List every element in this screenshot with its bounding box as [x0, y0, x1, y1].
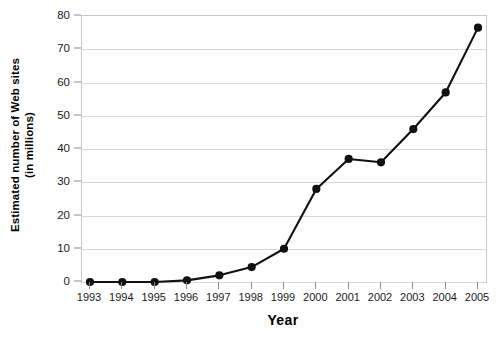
y-axis-tick-mark: [74, 181, 81, 182]
x-axis-tick-mark: [315, 282, 316, 289]
y-axis-tick-label: 40: [57, 143, 70, 154]
y-axis-title-line-2: (in millions): [22, 58, 36, 232]
y-axis-tick-mark: [74, 214, 81, 215]
y-axis-title: Estimated number of Web sites (in millio…: [0, 0, 44, 290]
y-axis-tick-labels: 01020304050607080: [44, 8, 74, 288]
y-axis-tick-mark: [74, 81, 81, 82]
x-axis-tick-label: 1996: [174, 291, 198, 304]
line-chart-figure: Estimated number of Web sites (in millio…: [0, 0, 498, 342]
plot-area: [81, 15, 487, 283]
x-axis-tick-mark: [380, 282, 381, 289]
x-axis-tick-mark: [89, 282, 90, 289]
y-axis-tick-label: 50: [57, 109, 70, 120]
x-axis-tick-label: 1997: [206, 291, 230, 304]
x-axis-tick-mark: [251, 282, 252, 289]
y-axis-title-line-1: Estimated number of Web sites: [9, 58, 21, 232]
x-axis-tick-mark: [445, 282, 446, 289]
y-axis-tick-label: 10: [57, 242, 70, 253]
x-axis-tick-label: 1999: [271, 291, 295, 304]
y-axis-tick-label: 80: [57, 10, 70, 21]
y-axis-tick-mark: [74, 247, 81, 248]
x-axis-tick-label: 2001: [335, 291, 359, 304]
x-axis-tick-mark: [121, 282, 122, 289]
data-point-marker: [377, 158, 385, 166]
x-axis-tick-mark: [412, 282, 413, 289]
x-axis-tick-label: 2004: [432, 291, 456, 304]
data-point-marker: [409, 125, 417, 133]
data-point-marker: [442, 88, 450, 96]
data-point-marker: [215, 271, 223, 279]
x-axis-tick-label: 2002: [368, 291, 392, 304]
x-axis-tick-mark: [218, 282, 219, 289]
x-axis-tick-label: 2005: [465, 291, 489, 304]
x-axis-tick-label: 2003: [400, 291, 424, 304]
y-axis-tick-mark: [74, 114, 81, 115]
x-axis-tick-label: 1998: [238, 291, 262, 304]
x-axis-tick-label: 2000: [303, 291, 327, 304]
x-axis-title: Year: [81, 312, 485, 328]
y-axis-tick-mark: [74, 148, 81, 149]
x-axis-tick-label: 1993: [77, 291, 101, 304]
y-axis-tick-label: 20: [57, 209, 70, 220]
y-axis-tick-label: 60: [57, 76, 70, 87]
y-axis-tick-label: 30: [57, 176, 70, 187]
y-axis-tick-label: 70: [57, 43, 70, 54]
x-axis-tick-mark: [283, 282, 284, 289]
x-axis-tick-mark: [154, 282, 155, 289]
y-axis-tick-mark: [74, 15, 81, 16]
data-point-marker: [474, 24, 482, 32]
y-axis-tick-label: 0: [64, 276, 70, 287]
data-series-line: [82, 16, 486, 282]
x-axis-tick-mark: [348, 282, 349, 289]
data-point-marker: [345, 155, 353, 163]
x-axis-tick-label: 1994: [109, 291, 133, 304]
y-axis-tick-mark: [74, 48, 81, 49]
data-point-marker: [248, 263, 256, 271]
x-axis-tick-mark: [186, 282, 187, 289]
y-axis-tick-mark: [74, 281, 81, 282]
x-axis-tick-mark: [477, 282, 478, 289]
x-axis-tick-label: 1995: [141, 291, 165, 304]
series-line: [90, 28, 478, 282]
data-point-marker: [280, 245, 288, 253]
x-axis-tick-labels: 1993199419951996199719981999200020012002…: [81, 291, 485, 307]
data-point-marker: [312, 185, 320, 193]
x-axis-tick-marks: [81, 282, 485, 290]
